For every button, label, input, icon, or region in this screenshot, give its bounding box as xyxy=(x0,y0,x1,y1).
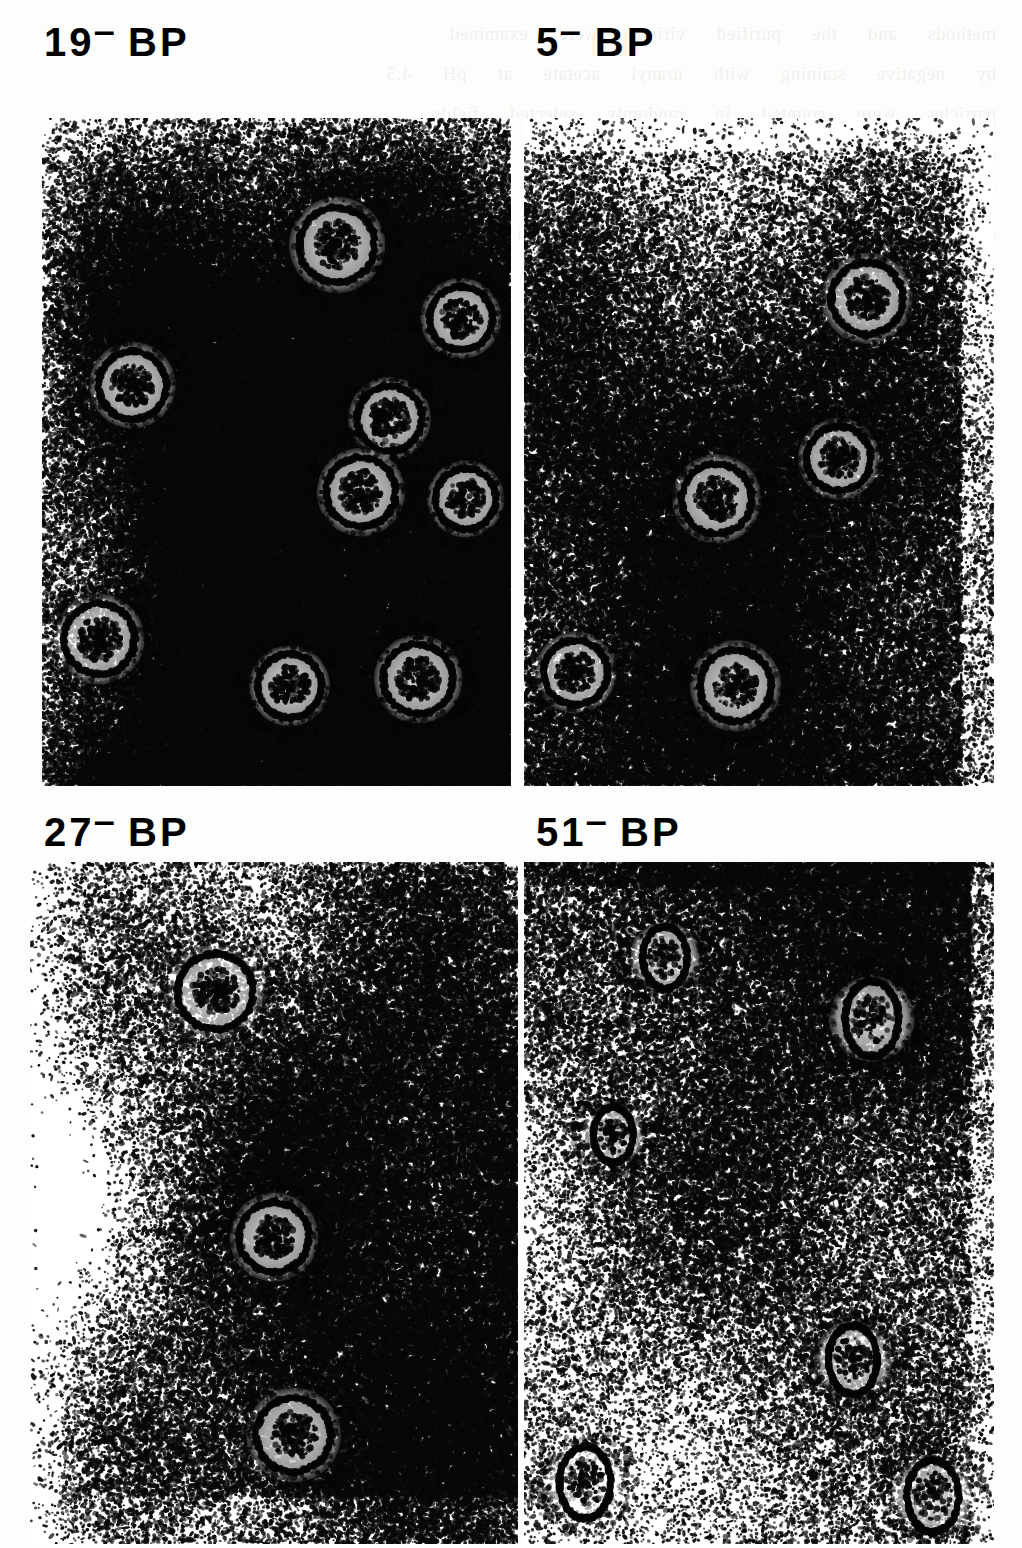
panel-label-5-bp-minus: − xyxy=(560,16,586,50)
micrograph-19-bp xyxy=(42,118,518,786)
panel-label-5-bp-suffix: BP xyxy=(595,20,657,64)
panel-label-51-bp-minus: − xyxy=(585,806,611,840)
panel-label-19-bp: 19−BP xyxy=(44,16,190,65)
panel-label-51-bp-number: 51 xyxy=(536,810,587,854)
panel-label-27-bp-minus: − xyxy=(93,806,119,840)
panel-label-19-bp-number: 19 xyxy=(44,20,95,64)
panel-label-27-bp-suffix: BP xyxy=(128,810,190,854)
panel-label-19-bp-minus: − xyxy=(93,16,119,50)
panel-label-27-bp: 27−BP xyxy=(44,806,190,855)
micrograph-5-bp xyxy=(524,118,994,786)
panel-label-51-bp-suffix: BP xyxy=(620,810,682,854)
micrograph-51-bp xyxy=(524,862,994,1544)
micrograph-27-bp xyxy=(30,862,518,1544)
panel-label-27-bp-number: 27 xyxy=(44,810,95,854)
panel-label-51-bp: 51−BP xyxy=(536,806,682,855)
panel-label-5-bp-number: 5 xyxy=(536,20,561,64)
panel-label-19-bp-suffix: BP xyxy=(128,20,190,64)
panel-label-5-bp: 5−BP xyxy=(536,16,656,65)
figure-plate: methods and the purified virions were ex… xyxy=(0,0,1022,1548)
